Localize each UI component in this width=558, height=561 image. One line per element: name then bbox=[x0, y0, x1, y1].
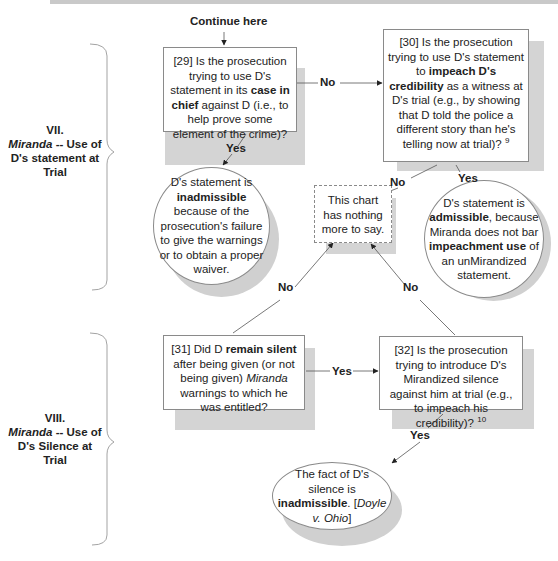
edge-q30-yes: Yes bbox=[458, 172, 478, 184]
edge-q29-yes: Yes bbox=[226, 142, 246, 154]
section-viii-numeral: VIII. bbox=[0, 411, 110, 425]
section-viii-line2: D's Silence at bbox=[0, 439, 110, 453]
section-viii-rest: -- Use of bbox=[52, 426, 101, 438]
section-vii-line2: D's statement at bbox=[0, 151, 110, 165]
section-vii-italic: Miranda bbox=[8, 138, 52, 150]
section-vii-rest: -- Use of bbox=[52, 138, 101, 150]
inadmissible-statement-node: D's statement is inadmissible because of… bbox=[153, 167, 270, 285]
edge-q29-no: No bbox=[320, 76, 335, 88]
edge-q32-yes: Yes bbox=[410, 429, 430, 441]
section-vii-line3: Trial bbox=[0, 165, 110, 179]
edge-q31-no: No bbox=[278, 281, 293, 293]
edge-q32-no: No bbox=[403, 281, 418, 293]
silence-text-post: ] bbox=[348, 512, 351, 524]
section-viii-label: VIII. Miranda -- Use of D's Silence at T… bbox=[0, 411, 110, 467]
inadmissible-text-bold: inadmissible bbox=[177, 191, 247, 203]
q32-footnote: 10 bbox=[477, 415, 486, 424]
admissible-text-pre: D's statement is bbox=[443, 197, 524, 209]
continue-here-label: Continue here bbox=[190, 15, 267, 27]
section-vii-numeral: VII. bbox=[0, 123, 110, 137]
section-viii-line1: Miranda -- Use of bbox=[0, 425, 110, 439]
silence-inadmissible-node: The fact of D's silence is inadmissible.… bbox=[272, 462, 392, 530]
question-29-box: [29] Is the prosecution trying to use D'… bbox=[163, 47, 297, 132]
silence-text-mid: . [ bbox=[347, 497, 357, 509]
edge-q30-no: No bbox=[390, 176, 405, 188]
q31-text-italic: Miranda bbox=[246, 372, 288, 384]
nothing-more-node: This chart has nothing more to say. bbox=[314, 185, 392, 243]
q31-text-pre: [31] Did D bbox=[171, 343, 225, 355]
q31-text-bold: remain silent bbox=[226, 343, 297, 355]
admissible-statement-node: D's statement is admissible, because Mir… bbox=[424, 180, 544, 298]
section-viii-line3: Trial bbox=[0, 453, 110, 467]
q30-footnote: 9 bbox=[505, 136, 509, 145]
inadmissible-text-pre: D's statement is bbox=[171, 176, 252, 188]
silence-text-bold: inadmissible bbox=[278, 497, 348, 509]
question-31-box: [31] Did D remain silent after being giv… bbox=[163, 335, 305, 410]
silence-text-pre: The fact of D's silence is bbox=[295, 468, 369, 495]
admissible-text-bold: admissible bbox=[429, 211, 488, 223]
section-vii-line1: Miranda -- Use of bbox=[0, 137, 110, 151]
admissible-text-bold2: impeachment use bbox=[429, 240, 526, 252]
edge-q31-yes: Yes bbox=[332, 365, 352, 377]
question-30-box: [30] Is the prosecution trying to use D'… bbox=[383, 29, 529, 162]
question-32-box: [32] Is the prosecution trying to introd… bbox=[379, 336, 523, 410]
section-vii-label: VII. Miranda -- Use of D's statement at … bbox=[0, 123, 110, 179]
section-viii-italic: Miranda bbox=[8, 426, 52, 438]
inadmissible-text-post: because of the prosecution's failure to … bbox=[160, 205, 264, 275]
nothing-more-text: This chart has nothing more to say. bbox=[322, 194, 384, 235]
q31-text-post: warnings to which he was entitled? bbox=[180, 387, 287, 414]
